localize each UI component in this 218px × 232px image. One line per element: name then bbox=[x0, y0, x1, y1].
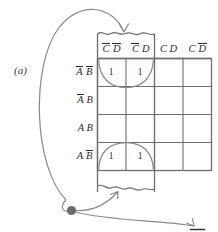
col3-d-overbar: D bbox=[198, 44, 207, 55]
cell-r3-c1: 1 bbox=[133, 152, 147, 162]
cell-r0-c0: 1 bbox=[104, 68, 118, 78]
column-header-c-d-bar: CD bbox=[183, 44, 212, 55]
col1-d-plain: D bbox=[142, 43, 150, 54]
row3-a-plain: A bbox=[77, 150, 83, 161]
row2-b-plain: B bbox=[87, 122, 93, 133]
strip-bottom-torn-edge bbox=[98, 185, 155, 190]
row-header-a-b: AB bbox=[57, 123, 93, 134]
cell-r0-c1: 1 bbox=[133, 68, 147, 78]
cell-r3-c0: 1 bbox=[104, 152, 118, 162]
row-header-a-bar-b: AB bbox=[57, 95, 93, 106]
column-header-c-d: CD bbox=[154, 44, 183, 55]
connector-curves bbox=[39, 9, 205, 229]
row0-a-overbar: A bbox=[76, 67, 83, 78]
junction-dot bbox=[67, 206, 76, 215]
row-header-a-b-bar: AB bbox=[57, 151, 93, 162]
col3-c-plain: C bbox=[188, 43, 195, 54]
figure-vector-layer bbox=[0, 0, 218, 232]
col2-d-plain: D bbox=[169, 43, 177, 54]
row-header-a-bar-b-bar: AB bbox=[57, 67, 93, 78]
row3-b-overbar: B bbox=[86, 151, 93, 162]
col0-d-overbar: D bbox=[112, 44, 121, 55]
curve-output-right bbox=[75, 212, 194, 226]
col0-c-overbar: C bbox=[102, 44, 110, 55]
strip-top-torn-edge bbox=[98, 32, 155, 34]
column-header-c-bar-d: CD bbox=[126, 44, 155, 55]
column-header-c-bar-d-bar: CD bbox=[97, 44, 126, 55]
col1-c-overbar: C bbox=[131, 44, 139, 55]
karnaugh-map-figure: (a) CD CD CD CD AB AB AB AB 1 1 1 1 bbox=[0, 0, 218, 232]
figure-label: (a) bbox=[14, 64, 27, 76]
row0-b-overbar: B bbox=[86, 67, 93, 78]
row2-a-plain: A bbox=[78, 122, 84, 133]
col2-c-plain: C bbox=[160, 43, 167, 54]
row1-a-overbar: A bbox=[77, 95, 84, 106]
row1-b-plain: B bbox=[87, 94, 93, 105]
